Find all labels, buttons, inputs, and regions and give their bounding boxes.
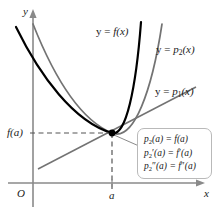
eq1-lhs-arg: (a): [154, 148, 165, 158]
y-axis-tick-label-fa: f(a): [7, 127, 23, 138]
y-axis-arrowhead: [29, 9, 36, 18]
eq0-rhs-arg: (a): [177, 134, 188, 144]
callout-box: p2(a) = f(a) p2′(a) = f′(a) p2″(a) = f″(…: [137, 128, 212, 179]
curve-label-p2-prefix: y =: [156, 43, 173, 55]
curve-label-f-prefix: y =: [96, 25, 113, 37]
eq2-lhs-arg: (a): [156, 161, 167, 171]
curve-label-p1-prefix: y =: [155, 85, 172, 97]
callout-leader-line: [114, 135, 139, 146]
eq0-equals: =: [163, 134, 174, 144]
curve-label-p2-arg: (x): [182, 43, 194, 55]
curve-label-p1-arg: (x): [181, 85, 193, 97]
origin-label: O: [17, 188, 25, 199]
eq2-equals: =: [167, 161, 178, 171]
curve-label-f: y = f(x): [96, 26, 129, 37]
callout-equation-value: p2(a) = f(a): [144, 133, 207, 147]
callout-equation-first-derivative: p2′(a) = f′(a): [144, 147, 207, 161]
eq2-rhs-arg: (a): [185, 161, 196, 171]
y-axis-label: y: [23, 6, 28, 17]
eq0-lhs-arg: (a): [152, 134, 163, 144]
curve-label-f-arg: (x): [116, 25, 128, 37]
x-axis-arrowhead: [196, 179, 205, 186]
x-axis-label: x: [204, 188, 209, 199]
eq1-equals: =: [165, 148, 176, 158]
eq1-rhs-arg: (a): [181, 148, 192, 158]
curve-label-p2: y = p2(x): [156, 44, 195, 56]
taylor-approximation-figure: y = f(x) y = p2(x) y = p1(x) f(a) a O x …: [0, 0, 220, 217]
p2-quadratic-curve: [33, 24, 162, 134]
x-axis-tick-label-a: a: [109, 190, 115, 201]
curve-label-p1: y = p1(x): [155, 86, 194, 98]
point-of-tangency: [109, 130, 116, 137]
f-function-curve: [16, 22, 141, 133]
callout-equation-second-derivative: p2″(a) = f″(a): [144, 160, 207, 174]
